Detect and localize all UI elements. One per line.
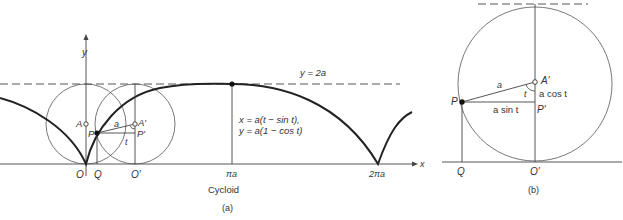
label-Q-b: Q <box>457 166 465 177</box>
label-x-axis: x <box>419 159 425 169</box>
label-a: a <box>114 119 119 129</box>
label-A: A <box>75 118 82 129</box>
label-O-prime: O′ <box>131 169 142 180</box>
panel-a-title: Cycloid <box>208 184 239 195</box>
label-O-prime-b: O′ <box>530 166 541 177</box>
label-pi-a: πa <box>226 169 237 179</box>
panel-a: y x y = 2a x = a(t − sin t), y = a(1 − c… <box>0 34 425 213</box>
panel-b: A′ a t a cos t P a sin t P′ Q O′ (b) <box>442 4 622 195</box>
point-A-prime-b <box>533 80 538 85</box>
label-P-prime-b: P′ <box>537 104 547 115</box>
label-P-prime: P′ <box>137 128 146 139</box>
cycloid-figure: y x y = 2a x = a(t − sin t), y = a(1 − c… <box>0 0 623 220</box>
label-A-prime: A′ <box>137 117 147 128</box>
point-A <box>84 122 88 126</box>
cycloid-curve <box>0 84 412 164</box>
label-2-pi-a: 2πa <box>368 169 385 179</box>
label-y-axis: y <box>81 47 88 58</box>
panel-a-caption: (a) <box>222 203 233 213</box>
label-t-b: t <box>524 89 527 99</box>
label-O: O <box>76 169 84 180</box>
point-P <box>94 130 99 135</box>
point-top <box>229 81 234 86</box>
label-P: P <box>88 128 95 139</box>
label-a-sin-t: a sin t <box>493 104 519 115</box>
label-a-cos-t: a cos t <box>539 88 567 99</box>
label-P-b: P <box>451 96 458 107</box>
angle-t-arc-b <box>526 85 535 92</box>
label-Q: Q <box>94 169 102 180</box>
y-axis-arrow-icon <box>84 34 89 40</box>
x-axis-arrow-icon <box>412 162 418 167</box>
label-t: t <box>125 137 128 147</box>
point-P-b <box>459 99 464 104</box>
label-a-b: a <box>497 80 502 90</box>
point-A-prime <box>133 122 137 126</box>
equation-y: y = a(1 − cos t) <box>238 125 302 136</box>
label-y-2a: y = 2a <box>299 67 326 78</box>
panel-b-caption: (b) <box>528 185 539 195</box>
equation-x: x = a(t − sin t), <box>238 114 300 125</box>
label-A-prime-b: A′ <box>540 75 551 86</box>
